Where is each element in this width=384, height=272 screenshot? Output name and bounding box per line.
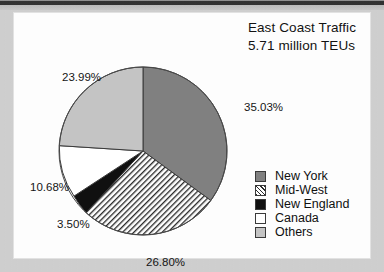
chart-title-block: East Coast Traffic 5.71 million TEUs bbox=[248, 19, 356, 55]
chart-subtitle-line2: 5.71 million TEUs bbox=[248, 37, 356, 55]
legend-item-others: Others bbox=[255, 225, 384, 239]
legend-label-canada: Canada bbox=[275, 211, 319, 225]
legend-label-new-england: New England bbox=[275, 197, 349, 211]
legend-swatch-canada bbox=[255, 213, 266, 224]
legend-item-mid-west: Mid-West bbox=[255, 183, 384, 197]
value-label-others: 23.99% bbox=[62, 71, 101, 84]
pie-chart bbox=[57, 65, 229, 237]
value-label-new-york: 35.03% bbox=[244, 101, 283, 114]
value-label-mid-west: 26.80% bbox=[146, 256, 185, 269]
value-label-new-england: 3.50% bbox=[57, 218, 90, 231]
chart-title-line1: East Coast Traffic bbox=[248, 19, 356, 37]
legend-swatch-new-england bbox=[255, 199, 266, 210]
legend-item-canada: Canada bbox=[255, 211, 384, 225]
legend-label-mid-west: Mid-West bbox=[275, 183, 328, 197]
legend-label-others: Others bbox=[275, 225, 313, 239]
chart-panel: East Coast Traffic 5.71 million TEUs bbox=[14, 13, 370, 258]
legend-swatch-mid-west bbox=[255, 185, 266, 196]
pie-chart-svg bbox=[57, 65, 229, 237]
legend-swatch-others bbox=[255, 227, 266, 238]
value-label-canada: 10.68% bbox=[30, 181, 69, 194]
scanned-page-background: East Coast Traffic 5.71 million TEUs bbox=[0, 0, 384, 272]
legend-item-new-york: New York bbox=[255, 169, 384, 183]
legend-item-new-england: New England bbox=[255, 197, 384, 211]
chart-legend: New York Mid-West New England Canada Oth… bbox=[255, 169, 384, 239]
legend-label-new-york: New York bbox=[275, 169, 328, 183]
legend-swatch-new-york bbox=[255, 171, 266, 182]
